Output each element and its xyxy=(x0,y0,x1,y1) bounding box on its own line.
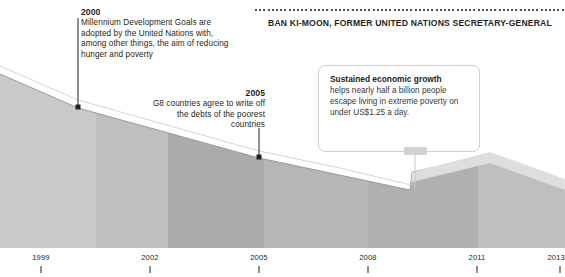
annotation-2000-year: 2000 xyxy=(81,7,236,17)
annotation-2000-text: Millennium Development Goals are adopted… xyxy=(81,18,236,60)
attribution-text: BAN KI-MOON, FORMER UNITED NATIONS SECRE… xyxy=(255,18,565,28)
callout-box: Sustained economic growth helps nearly h… xyxy=(318,65,480,152)
callout-title: Sustained economic growth xyxy=(330,74,469,85)
axis-label-2005: 2005 xyxy=(250,253,268,262)
axis-ticks xyxy=(41,266,560,273)
dotted-rule-icon xyxy=(255,9,565,11)
axis-label-1999: 1999 xyxy=(32,253,50,262)
infographic-panel: BAN KI-MOON, FORMER UNITED NATIONS SECRE… xyxy=(0,0,565,277)
marker-2000 xyxy=(76,105,81,110)
axis-label-2011: 2011 xyxy=(469,253,486,262)
axis-label-2002: 2002 xyxy=(141,253,159,262)
annotation-2005: 2005 G8 countries agree to write off the… xyxy=(148,88,265,131)
callout-connector-tab xyxy=(404,147,427,155)
callout-body: helps nearly half a billion people escap… xyxy=(330,86,469,118)
annotation-2000: 2000 Millennium Development Goals are ad… xyxy=(81,7,236,60)
annotation-2005-text: G8 countries agree to write off the debt… xyxy=(148,99,265,130)
axis-label-2008: 2008 xyxy=(359,253,377,262)
annotation-2005-year: 2005 xyxy=(148,88,265,98)
axis-label-2013: 2013 xyxy=(547,253,565,262)
marker-2005 xyxy=(257,155,262,160)
